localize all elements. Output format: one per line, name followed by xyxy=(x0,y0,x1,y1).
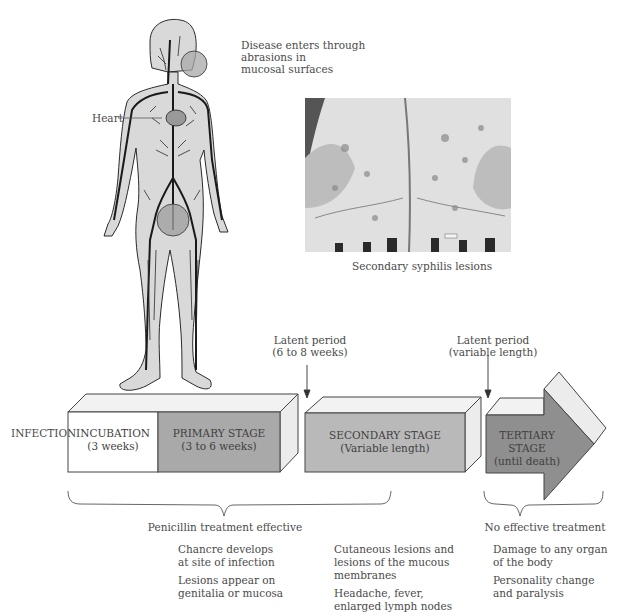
treatment-effective-label: Penicillin treatment effective xyxy=(140,521,310,534)
palms-illustration xyxy=(305,98,511,252)
primary-symptom-2-line2: genitalia or mucosa xyxy=(178,587,283,600)
primary-symptom-1-line2: at site of infection xyxy=(178,556,275,569)
secondary-symptom-2-line1: Headache, fever, xyxy=(334,587,452,600)
tertiary-symptom-2: Personality change and paralysis xyxy=(493,574,594,600)
heart-shape xyxy=(166,110,186,126)
stage-incubation-name: INCUBATION xyxy=(68,427,158,440)
tertiary-symptom-2-line1: Personality change xyxy=(493,574,594,587)
photo-caption: Secondary syphilis lesions xyxy=(352,260,492,273)
stage-primary-duration: (3 to 6 weeks) xyxy=(158,440,280,453)
infection-label: INFECTION xyxy=(11,427,76,440)
stage-incubation: INCUBATION (3 weeks) xyxy=(68,427,158,453)
stage-tertiary-duration: (until death) xyxy=(484,455,570,468)
tertiary-symptom-1: Damage to any organ of the body xyxy=(493,543,607,569)
entry-note-line3: mucosal surfaces xyxy=(241,63,333,76)
stage-incubation-duration: (3 weeks) xyxy=(68,440,158,453)
treatment-not-effective-label: No effective treatment xyxy=(484,521,606,534)
stage-secondary: SECONDARY STAGE (Variable length) xyxy=(305,429,465,455)
stage-tertiary: TERTIARY STAGE (until death) xyxy=(484,429,570,468)
primary-symptom-1: Chancre develops at site of infection xyxy=(178,543,275,569)
secondary-symptom-1: Cutaneous lesions and lesions of the muc… xyxy=(334,543,454,582)
heart-label: Heart xyxy=(92,112,123,125)
primary-symptom-2-line1: Lesions appear on xyxy=(178,574,283,587)
stage-secondary-name: SECONDARY STAGE xyxy=(305,429,465,442)
stage-secondary-duration: (Variable length) xyxy=(305,442,465,455)
secondary-symptom-1-line1: Cutaneous lesions and xyxy=(334,543,454,556)
latent-period-2-line2: (variable length) xyxy=(443,346,543,359)
primary-symptom-1-line1: Chancre develops xyxy=(178,543,275,556)
tertiary-symptom-2-line2: and paralysis xyxy=(493,587,594,600)
secondary-symptom-2: Headache, fever, enlarged lymph nodes xyxy=(334,587,452,613)
secondary-symptom-1-line3: membranes xyxy=(334,569,454,582)
secondary-symptom-2-line2: enlarged lymph nodes xyxy=(334,600,452,613)
stage-tertiary-name: TERTIARY STAGE xyxy=(484,429,570,455)
tertiary-symptom-1-line1: Damage to any organ xyxy=(493,543,607,556)
lesions-photo xyxy=(305,98,511,252)
secondary-symptom-1-line2: lesions of the mucous xyxy=(334,556,454,569)
stage-primary-name: PRIMARY STAGE xyxy=(158,427,280,440)
stage-primary: PRIMARY STAGE (3 to 6 weeks) xyxy=(158,427,280,453)
tertiary-symptom-1-line2: of the body xyxy=(493,556,607,569)
latent-period-1-line2: (6 to 8 weeks) xyxy=(265,346,355,359)
primary-symptom-2: Lesions appear on genitalia or mucosa xyxy=(178,574,283,600)
